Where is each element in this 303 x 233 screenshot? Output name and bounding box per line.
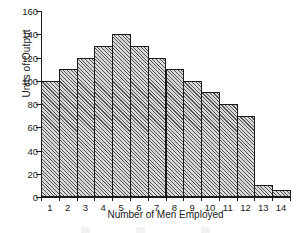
bar: [166, 69, 185, 197]
bar: [94, 46, 113, 197]
y-tick-label: 0: [33, 192, 38, 203]
bar: [148, 58, 167, 198]
bar: [77, 58, 96, 198]
x-tick-mark: [290, 197, 291, 201]
y-tick-label: 80: [27, 99, 38, 110]
bar: [112, 34, 131, 197]
y-tick-label: 140: [22, 29, 38, 40]
x-tick-mark: [272, 197, 273, 201]
scan-artifacts: [41, 226, 290, 233]
bar: [272, 190, 291, 197]
x-tick-mark: [130, 197, 131, 201]
x-tick-mark: [166, 197, 167, 201]
y-tick-label: 60: [27, 122, 38, 133]
x-tick-mark: [219, 197, 220, 201]
bar: [130, 46, 149, 197]
y-tick-label: 40: [27, 145, 38, 156]
x-tick-mark: [59, 197, 60, 201]
bar: [59, 69, 78, 197]
x-tick-mark: [94, 197, 95, 201]
bar: [254, 185, 273, 197]
y-tick-label: 160: [22, 6, 38, 17]
x-tick-mark: [148, 197, 149, 201]
bar: [41, 81, 60, 197]
x-tick-mark: [77, 197, 78, 201]
bar: [219, 104, 238, 197]
x-tick-mark: [237, 197, 238, 201]
bar: [183, 81, 202, 197]
scan-artifact: [201, 227, 210, 233]
y-tick-label: 20: [27, 168, 38, 179]
bar: [237, 116, 256, 197]
x-tick-mark: [41, 197, 42, 201]
histogram-chart: Units of Output 020406080100120140160 12…: [0, 0, 303, 233]
y-axis-title: Units of Output: [21, 0, 32, 134]
x-tick-mark: [183, 197, 184, 201]
bar: [201, 92, 220, 197]
y-tick-label: 120: [22, 52, 38, 63]
x-tick-mark: [112, 197, 113, 201]
scan-artifact: [81, 227, 90, 233]
plot-area: 020406080100120140160 123456789101112131…: [41, 11, 290, 197]
x-tick-mark: [201, 197, 202, 201]
x-axis-title: Number of Men Employed: [41, 209, 290, 220]
x-tick-mark: [254, 197, 255, 201]
scan-artifact: [136, 227, 145, 233]
y-tick-label: 100: [22, 75, 38, 86]
